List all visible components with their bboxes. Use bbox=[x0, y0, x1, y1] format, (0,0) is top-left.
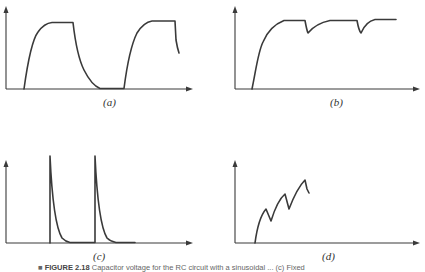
caption-number: FIGURE 2.18 bbox=[45, 263, 90, 272]
arrow-up-icon bbox=[233, 160, 238, 167]
curve-d bbox=[255, 180, 309, 243]
caption-text: Capacitor voltage for the RC circuit wit… bbox=[92, 263, 305, 272]
arrow-right-icon bbox=[413, 241, 420, 246]
arrow-right-icon bbox=[186, 87, 193, 92]
panel-label-b: (b) bbox=[330, 96, 343, 108]
arrow-right-icon bbox=[413, 87, 420, 92]
panel-c bbox=[4, 156, 194, 246]
panel-label-a: (a) bbox=[103, 96, 116, 108]
panel-a bbox=[4, 6, 194, 92]
panel-d bbox=[233, 160, 421, 246]
panel-label-c: (c) bbox=[93, 250, 105, 262]
curve-b bbox=[252, 20, 396, 90]
arrow-right-icon bbox=[186, 241, 193, 246]
arrow-up-icon bbox=[233, 6, 238, 13]
figure-canvas bbox=[0, 0, 425, 272]
curve-a bbox=[24, 21, 179, 89]
curve-c bbox=[50, 156, 135, 243]
arrow-up-icon bbox=[4, 6, 9, 13]
caption-marker-icon: ■ bbox=[38, 263, 43, 272]
panel-b bbox=[233, 6, 421, 92]
arrow-up-icon bbox=[4, 160, 9, 167]
panel-label-d: (d) bbox=[322, 250, 335, 262]
figure-caption: ■ FIGURE 2.18 Capacitor voltage for the … bbox=[38, 263, 305, 272]
